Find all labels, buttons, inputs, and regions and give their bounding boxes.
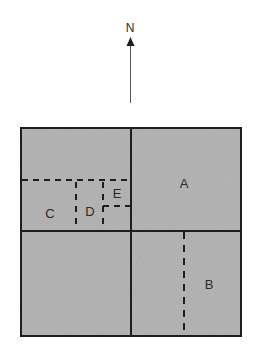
region-label-b: B: [205, 277, 214, 292]
north-indicator: N: [126, 21, 135, 103]
region-label-e: E: [113, 186, 122, 201]
region-label-c: C: [45, 206, 54, 221]
north-arrow-icon: [127, 37, 135, 46]
north-label: N: [126, 21, 135, 35]
region-label-a: A: [180, 176, 189, 191]
plot-diagram: N A B C D E: [0, 0, 257, 360]
region-label-d: D: [85, 204, 94, 219]
